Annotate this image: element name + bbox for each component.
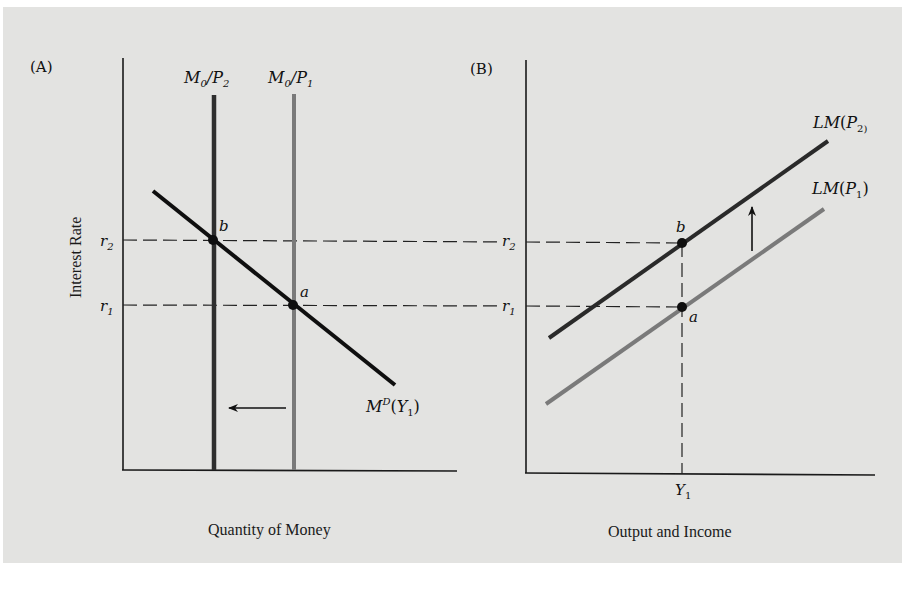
panel-a-point-b	[208, 235, 218, 245]
label-lm-p2: LM(P2)	[812, 113, 867, 134]
panel-a-r2-label: r2	[100, 232, 114, 252]
r2-dashed-guide	[123, 240, 517, 242]
panel-b-tag: (B)	[470, 60, 493, 78]
money-demand-line	[153, 191, 395, 385]
panel-b-r2-guide	[526, 242, 682, 243]
panel-b-point-b	[677, 238, 687, 248]
panel-b: (B) r2 r1 LM(P2) LM(P1) b a Y1 Output an…	[470, 60, 875, 541]
panel-a-tag: (A)	[30, 58, 53, 76]
panel-a-x-axis-label: Quantity of Money	[208, 521, 331, 539]
panel-a-point-a	[288, 300, 298, 310]
panel-b-r1-guide	[526, 306, 682, 307]
label-lm-p1: LM(P1)	[811, 179, 869, 200]
panel-b-x-axis	[525, 473, 875, 475]
label-m0-p1: M0/P1	[267, 68, 313, 89]
panel-a-x-axis	[122, 470, 457, 471]
figure: (A) Interest Rate r2 r1 M0/P2 M0/P1 MD(Y…	[0, 0, 912, 590]
panel-a-r1-label: r1	[100, 297, 114, 317]
panel-a-y-axis-label: Interest Rate	[67, 217, 84, 298]
panel-a: (A) Interest Rate r2 r1 M0/P2 M0/P1 MD(Y…	[30, 58, 517, 539]
panel-b-point-a	[677, 302, 687, 312]
y1-tick-label: Y1	[675, 481, 691, 501]
panel-a-point-a-label: a	[300, 283, 309, 301]
label-m0-p2: M0/P2	[183, 68, 229, 89]
r1-dashed-guide	[123, 305, 517, 306]
label-money-demand: MD(Y1)	[365, 396, 420, 418]
panel-b-x-axis-label: Output and Income	[608, 523, 732, 541]
panel-b-point-a-label: a	[689, 308, 698, 326]
panel-b-point-b-label: b	[676, 218, 686, 236]
panel-a-point-b-label: b	[219, 217, 229, 235]
